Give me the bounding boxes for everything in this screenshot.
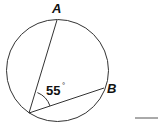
degree-symbol: ° xyxy=(62,81,65,90)
circle xyxy=(7,20,109,122)
angle-value: 55 xyxy=(46,83,60,98)
point-a-label: A xyxy=(51,1,61,16)
inscribed-angle-diagram: A B 55 ° xyxy=(0,0,158,132)
point-b-label: B xyxy=(107,81,116,96)
chord-to-b xyxy=(29,88,104,113)
chord-to-a xyxy=(29,20,57,113)
